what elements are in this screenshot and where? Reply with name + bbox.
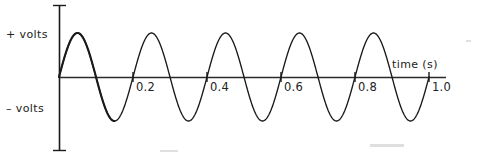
time-axis-tick-label: 0.6: [284, 82, 303, 94]
time-axis-tick-label: 0.2: [136, 82, 155, 94]
time-axis-tick-label: 0.8: [358, 82, 377, 94]
time-axis-tick-label: 0.4: [210, 82, 229, 94]
sine-wave-plot: [0, 0, 479, 157]
scan-speck: [160, 150, 178, 152]
waveform-figure: + volts – volts time (s) 0.20.40.60.81.0: [0, 0, 479, 157]
y-axis-positive-label: + volts: [6, 29, 48, 40]
x-axis-label: time (s): [392, 59, 438, 70]
time-axis: [59, 72, 446, 82]
scan-speck: [370, 144, 404, 147]
time-axis-tick-label: 1.0: [432, 82, 451, 94]
y-axis-negative-label: – volts: [6, 103, 44, 114]
scan-speck: [466, 40, 471, 42]
